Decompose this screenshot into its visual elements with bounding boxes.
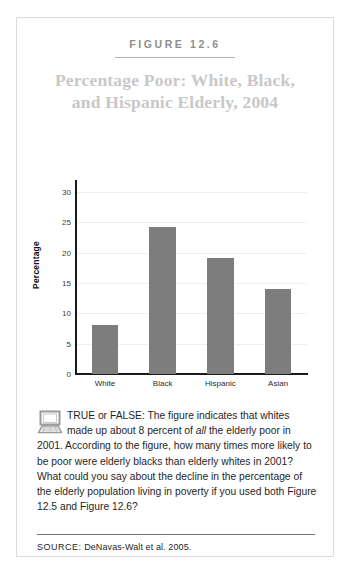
figure-label: FIGURE 12.6 <box>17 38 333 50</box>
figure-title: Percentage Poor: White, Black, and Hispa… <box>45 69 305 113</box>
question-text-part2: the elderly poor in 2001. According to t… <box>37 425 316 512</box>
gridline <box>76 253 307 254</box>
y-axis-tick-label: 20 <box>62 248 71 257</box>
x-axis-tick-label: Hispanic <box>205 379 236 388</box>
bar-chart: Percentage 051015202530WhiteBlackHispani… <box>17 168 335 398</box>
y-axis-tick-label: 15 <box>62 279 71 288</box>
question-emphasis: all <box>196 425 206 436</box>
figure-container: FIGURE 12.6 Percentage Poor: White, Blac… <box>16 17 334 557</box>
gridline <box>76 222 307 223</box>
source-divider <box>37 534 315 535</box>
figure-divider <box>115 57 235 58</box>
x-axis-tick-label: Black <box>153 379 173 388</box>
y-axis-line <box>75 180 77 374</box>
bar <box>207 258 234 374</box>
x-axis-tick-label: White <box>95 379 115 388</box>
y-axis-tick-label: 25 <box>62 218 71 227</box>
gridline <box>76 192 307 193</box>
y-axis-tick-label: 30 <box>62 188 71 197</box>
source-line: SOURCE: DeNavas-Walt et al. 2005. <box>37 542 191 552</box>
x-axis-tick-label: Asian <box>268 379 288 388</box>
question-block: TRUE or FALSE: The figure indicates that… <box>37 408 317 514</box>
gridline <box>76 283 307 284</box>
bar <box>92 325 119 374</box>
bar <box>265 289 292 374</box>
bar <box>149 227 176 374</box>
source-label: SOURCE: <box>37 542 82 552</box>
y-axis-tick-label: 5 <box>67 339 71 348</box>
y-axis-tick-label: 0 <box>67 370 71 379</box>
question-text: TRUE or FALSE: The figure indicates that… <box>37 408 317 514</box>
source-citation: DeNavas-Walt et al. 2005. <box>84 542 191 552</box>
y-axis-title: Percentage <box>31 225 41 305</box>
plot-area: 051015202530WhiteBlackHispanicAsian <box>76 186 307 374</box>
y-axis-tick-label: 10 <box>62 309 71 318</box>
computer-icon <box>37 410 63 434</box>
